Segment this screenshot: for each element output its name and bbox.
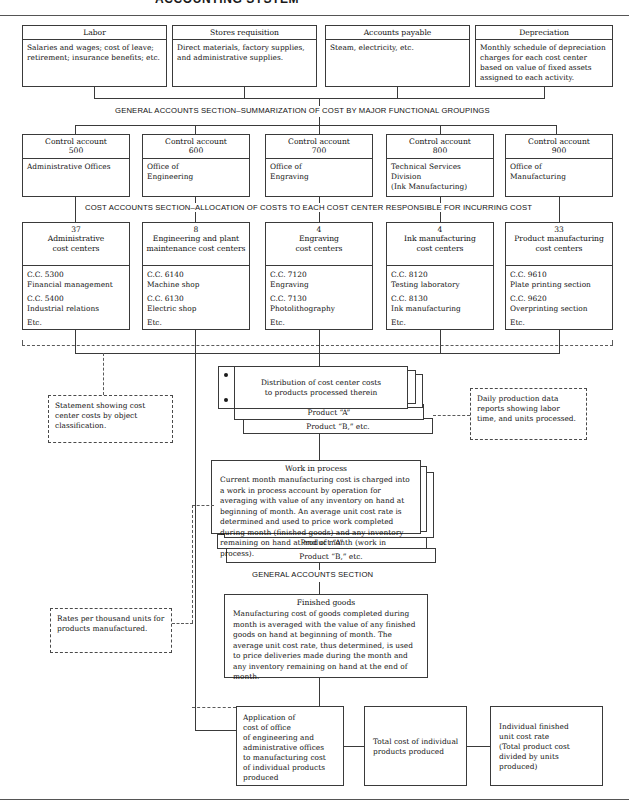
connector — [319, 563, 320, 570]
note-statement-text: Statement showing cost center costs by o… — [55, 401, 145, 430]
card-hole-icon — [224, 373, 228, 377]
cost-center-box: 33 Product manufacturing cost centers C.… — [505, 222, 613, 330]
cost-center-entry: C.C. 7120 Engraving — [270, 270, 368, 290]
source-document-body: Steam, electricity, etc. — [326, 40, 469, 55]
dashed-connector — [192, 505, 193, 623]
source-document-header: Depreciation — [476, 26, 612, 40]
connector — [195, 330, 196, 353]
control-account-box: Control account 500 Administrative Offic… — [22, 134, 130, 197]
cost-center-count: 37 — [71, 225, 81, 234]
finished-goods-box: Finished goods Manufacturing cost of goo… — [224, 594, 428, 678]
distribution-card: Distribution of cost center costs to pro… — [218, 366, 408, 409]
control-account-box: Control account 600 Office of Engineerin… — [142, 134, 250, 197]
control-account-title: Control account — [528, 137, 590, 146]
cost-center-entry: C.C. 5300 Financial management — [27, 270, 125, 290]
cost-center-entry: C.C. 9610 Plate printing section — [510, 270, 608, 290]
control-account-box: Control account 700 Office of Engraving — [265, 134, 373, 197]
connector — [75, 353, 320, 354]
control-account-box: Control account 900 Office of Manufactur… — [505, 134, 613, 197]
cost-center-count: 4 — [438, 225, 443, 234]
cost-center-entries: C.C. 5300 Financial management C.C. 5400… — [23, 266, 129, 330]
control-account-title: Control account — [288, 137, 350, 146]
control-account-number: 800 — [433, 146, 448, 155]
finished-goods-title: Finished goods — [225, 595, 427, 607]
cost-center-name: Engineering and plant maintenance cost c… — [147, 234, 246, 252]
cost-center-entries: C.C. 7120 Engraving C.C. 7130 Photolitho… — [266, 266, 372, 330]
note-daily-production-text: Daily production data reports showing la… — [477, 394, 576, 423]
connector — [319, 125, 320, 134]
source-document-header: Labor — [23, 26, 166, 40]
source-document-box: Labor Salaries and wages; cost of leave;… — [22, 25, 167, 87]
cost-center-entries: C.C. 9610 Plate printing section C.C. 96… — [506, 266, 612, 330]
connector — [75, 125, 76, 134]
application-of-cost-text: Application of cost of office of enginee… — [237, 707, 343, 789]
section-label-general-accounts-mid: GENERAL ACCOUNTS SECTION — [252, 570, 373, 579]
cost-center-count: 4 — [317, 225, 322, 234]
section-label-general-accounts-top: GENERAL ACCOUNTS SECTION–SUMMARIZATION O… — [115, 106, 490, 115]
cost-center-entry: C.C. 5400 Industrial relations — [27, 294, 125, 314]
connector — [94, 87, 95, 98]
dashed-connector — [192, 505, 214, 506]
cost-center-box: 4 Ink manufacturing cost centers C.C. 81… — [386, 222, 494, 330]
control-account-number: 700 — [312, 146, 327, 155]
cost-center-box: 4 Engraving cost centers C.C. 7120 Engra… — [265, 222, 373, 330]
work-in-process-title: Work in process — [212, 461, 420, 473]
cost-center-entry: C.C. 8120 Testing laboratory — [391, 270, 489, 290]
cost-center-count: 8 — [194, 225, 199, 234]
source-document-body: Salaries and wages; cost of leave; retir… — [23, 40, 166, 65]
application-of-cost-box: Application of cost of office of enginee… — [236, 706, 344, 786]
dashed-bus-end — [22, 340, 23, 346]
cost-center-header: 33 Product manufacturing cost centers — [506, 223, 612, 266]
connector — [556, 125, 557, 134]
control-account-number: 600 — [189, 146, 204, 155]
cost-center-name: Engraving cost centers — [296, 234, 343, 252]
cost-center-entry: C.C. 6130 Electric shop — [147, 294, 245, 314]
control-account-header: Control account 800 — [387, 135, 493, 159]
cost-center-name: Administrative cost centers — [48, 234, 105, 252]
cost-center-name: Ink manufacturing cost centers — [404, 234, 476, 252]
control-account-title: Control account — [409, 137, 471, 146]
unit-cost-rate-box: Individual finished unit cost rate (Tota… — [490, 706, 603, 786]
cost-center-entry: C.C. 8130 Ink manufacturing — [391, 294, 489, 314]
cost-center-box: 37 Administrative cost centers C.C. 5300… — [22, 222, 130, 330]
control-account-body: Office of Engraving — [266, 159, 372, 184]
connector — [75, 330, 76, 353]
control-account-body: Administrative Offices — [23, 159, 129, 174]
cost-center-header: 4 Engraving cost centers — [266, 223, 372, 266]
connector — [319, 117, 320, 125]
control-account-header: Control account 700 — [266, 135, 372, 159]
distribution-card-text: Distribution of cost center costs to pro… — [239, 377, 403, 398]
connector — [467, 746, 490, 747]
cost-center-name: Product manufacturing cost centers — [514, 234, 604, 252]
cost-center-entries: C.C. 6140 Machine shop C.C. 6130 Electri… — [143, 266, 249, 330]
connector — [440, 125, 441, 134]
cost-center-entry: Etc. — [391, 318, 489, 328]
page-title: ACCOUNTING SYSTEM — [155, 0, 475, 6]
work-in-process-body: Current month manufacturing cost is char… — [212, 473, 420, 562]
distribution-product-b-label: Product “B,” etc. — [244, 422, 432, 431]
dashed-bus — [22, 345, 613, 346]
dashed-bus-end — [612, 340, 613, 346]
cost-center-entry: C.C. 6140 Machine shop — [147, 270, 245, 290]
bottom-rule — [0, 799, 629, 800]
cost-center-entry: C.C. 7130 Photolithography — [270, 294, 368, 314]
source-document-header: Stores requisition — [173, 26, 316, 40]
cost-center-entry: Etc. — [147, 318, 245, 328]
connector — [440, 330, 441, 353]
control-account-header: Control account 900 — [506, 135, 612, 159]
connector — [559, 197, 560, 222]
cost-center-count: 33 — [554, 225, 564, 234]
control-account-header: Control account 600 — [143, 135, 249, 159]
total-cost-text: Total cost of individual products produc… — [365, 734, 466, 759]
note-rates-text: Rates per thousand units for products ma… — [57, 614, 164, 633]
cost-center-entries: C.C. 8120 Testing laboratory C.C. 8130 I… — [387, 266, 493, 330]
control-account-header: Control account 500 — [23, 135, 129, 159]
control-account-body: Office of Engineering — [143, 159, 249, 184]
source-document-body: Monthly schedule of depreciation charges… — [476, 40, 612, 85]
connector — [344, 746, 364, 747]
connector — [319, 353, 560, 354]
control-account-number: 900 — [552, 146, 567, 155]
distribution-product-b-strip: Product “B,” etc. — [243, 418, 433, 434]
cost-center-box: 8 Engineering and plant maintenance cost… — [142, 222, 250, 330]
note-rates-box: Rates per thousand units for products ma… — [50, 608, 172, 653]
